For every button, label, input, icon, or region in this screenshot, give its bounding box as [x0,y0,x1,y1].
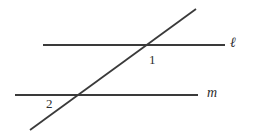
angle-1-label: 1 [149,53,156,66]
geometry-figure-canvas [0,0,254,134]
geometry-figure: ℓ m 1 2 [0,0,254,134]
figure-background [0,0,254,134]
line-l-label: ℓ [230,36,236,50]
angle-2-label: 2 [46,97,53,110]
line-m-label: m [207,86,217,100]
